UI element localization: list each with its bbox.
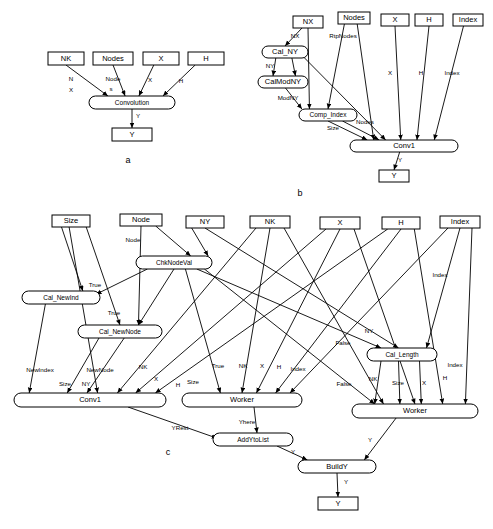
node-label: Size: [64, 216, 79, 225]
edge-layer: [29, 24, 472, 497]
edge-label: True: [212, 362, 225, 369]
edge-label: Y: [291, 448, 295, 455]
edge: [29, 304, 45, 393]
edge-label: N: [69, 75, 73, 82]
y-box: Y: [379, 170, 409, 182]
node-layer: NKNodesXHConvolutionYNXNodesXHIndexCal_N…: [14, 12, 483, 510]
node-label: Convolution: [115, 99, 150, 106]
edge-label: ModNY: [278, 94, 299, 101]
edge: [290, 228, 448, 393]
x-box: X: [320, 217, 360, 229]
edge-label: Y: [136, 112, 140, 119]
node-label: X: [337, 218, 342, 227]
edge: [185, 269, 220, 393]
edge-label: H: [179, 77, 183, 84]
edge-label: Index: [447, 361, 463, 368]
node-label: Y: [335, 499, 340, 508]
edge-label: NK: [139, 363, 148, 370]
x-box: X: [381, 14, 409, 26]
edge: [417, 26, 429, 140]
edge-label: H: [277, 363, 281, 370]
h-box: H: [188, 52, 224, 65]
edge-label: Size: [392, 379, 405, 386]
edge-label: True: [89, 281, 102, 288]
node-label: X: [392, 15, 397, 24]
addytolist-oval: AddYtoList: [213, 433, 293, 446]
node-label: Index: [451, 217, 470, 226]
edge: [155, 229, 387, 393]
buildy-oval: BuildY: [298, 460, 376, 473]
node-label: BuildY: [326, 462, 348, 471]
node-label: Worker: [403, 406, 428, 415]
node-label: ChkNodeVal: [156, 259, 193, 266]
edge-label: Y: [398, 156, 402, 163]
edge-label: NK: [239, 362, 248, 369]
edge-label: Index: [432, 271, 448, 278]
nk-box: NK: [250, 216, 290, 228]
edge-label: False: [335, 339, 351, 346]
edge-label: X: [148, 76, 152, 83]
edge-label: True: [108, 309, 121, 316]
node-label: X: [158, 54, 163, 63]
index-box: Index: [453, 14, 483, 26]
edge: [434, 26, 463, 140]
figure-canvas: NKNodesXHConvolutionYNXNodesXHIndexCal_N…: [0, 0, 493, 529]
edge-label: NY: [365, 327, 374, 334]
cal-ny-oval: Cal_NY: [262, 46, 308, 58]
edge-label: False: [336, 380, 352, 387]
edge: [414, 229, 442, 404]
calmodny-oval: CalModNY: [258, 76, 308, 88]
node-label: Comp_Index: [310, 111, 348, 119]
edge-label: X: [154, 375, 158, 382]
nk-box: NK: [48, 52, 84, 65]
edge: [128, 407, 217, 438]
y-box: Y: [112, 128, 152, 141]
edge: [308, 28, 309, 109]
edge-label: Node: [106, 75, 121, 82]
edge: [156, 226, 191, 256]
edge-label: s: [109, 85, 112, 92]
chknodeval-oval: ChkNodeVal: [136, 256, 212, 269]
edge-label: NY: [266, 62, 275, 69]
edge-label: Y: [368, 436, 372, 443]
edge: [292, 58, 296, 76]
worker-left-oval: Worker: [182, 393, 302, 407]
edge-label: X: [422, 379, 426, 386]
edge-label: Size: [327, 124, 340, 131]
edge-label: X: [388, 69, 392, 76]
node-box: Node: [120, 214, 162, 226]
node-label: NY: [200, 217, 210, 226]
node-label: Nodes: [102, 54, 124, 63]
node-label: Cal_NY: [272, 47, 298, 56]
edge-label: Yhere: [239, 418, 256, 425]
comp-index-oval: Comp_Index: [299, 109, 357, 121]
edge-label: NY: [82, 380, 91, 387]
edge-label: NewIndex: [26, 366, 54, 373]
node-label: NX: [303, 17, 313, 26]
edge-label: NK: [369, 375, 378, 382]
edge: [395, 26, 401, 140]
edge: [303, 57, 385, 140]
edge-label: Size: [59, 380, 72, 387]
edge-label: H: [176, 381, 180, 388]
edge-label: X: [69, 86, 73, 93]
edge-label: Index: [290, 365, 306, 372]
edge: [138, 269, 174, 325]
node-label: H: [398, 218, 403, 227]
h-box: H: [382, 217, 420, 229]
node-label: Conv1: [79, 395, 101, 404]
edge-label: Nodes: [356, 118, 374, 125]
x-box: X: [143, 52, 179, 65]
ny-box: NY: [186, 216, 224, 228]
panel-letter-b: b: [297, 188, 302, 198]
node-label: Index: [459, 15, 478, 24]
worker-right-oval: Worker: [352, 404, 478, 418]
y-box: Y: [318, 497, 358, 510]
cal-length-oval: Cal_Length: [367, 348, 437, 361]
cal-newnode-oval: Cal_NewNode: [78, 325, 162, 338]
node-label: AddYtoList: [237, 436, 269, 443]
node-label: NK: [61, 54, 71, 63]
index-box: Index: [440, 216, 480, 228]
edge-label: Size: [187, 378, 200, 385]
edge-label: Node: [126, 236, 141, 243]
